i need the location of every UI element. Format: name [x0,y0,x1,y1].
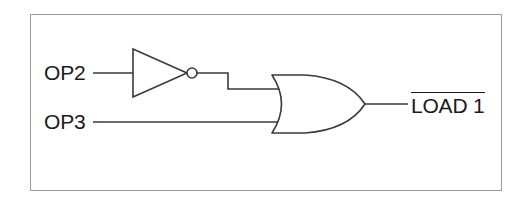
output-label-text: LOAD 1 [411,92,485,116]
not-gate-bubble-icon [187,68,197,78]
input-label-op2: OP2 [44,62,85,83]
or-gate-body [272,75,365,133]
input-label-op3: OP3 [44,111,85,132]
wire-inverter-to-or-gate [197,73,279,89]
output-label-load1: LOAD 1 [411,92,485,116]
not-gate-triangle [133,49,187,97]
logic-diagram-screenshot: OP2 OP3 LOAD 1 [0,0,525,201]
